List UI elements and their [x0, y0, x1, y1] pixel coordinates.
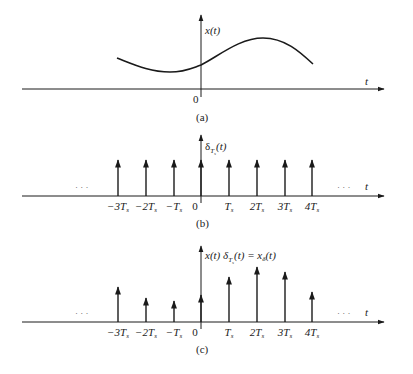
- sampled-impulses: [118, 267, 312, 322]
- panel-b: δTs(t) · · · · · · t −3Ts −2Ts −Ts 0 Ts …: [22, 135, 384, 230]
- y-axis-label: x(t) δTs(t) = xδ(t): [204, 249, 276, 265]
- caption-a: (a): [196, 111, 209, 124]
- tick-label: 4Ts: [305, 200, 320, 214]
- tick-label: 3Ts: [277, 200, 293, 214]
- ellipsis-right: · · ·: [337, 182, 351, 192]
- t-axis-label: t: [365, 180, 369, 192]
- tick-labels: −3Ts −2Ts −Ts 0 Ts 2Ts 3Ts 4Ts: [107, 326, 319, 340]
- signal-curve: [117, 38, 313, 72]
- caption-b: (b): [196, 217, 209, 230]
- tick-label: 4Ts: [305, 326, 320, 340]
- tick-label: −2Ts: [135, 326, 157, 340]
- tick-label: 3Ts: [277, 326, 293, 340]
- y-axis-label: δTs(t): [205, 140, 227, 156]
- panel-c: x(t) δTs(t) = xδ(t) · · · · · · t −3Ts −…: [22, 246, 384, 356]
- tick-label: −3Ts: [107, 326, 129, 340]
- tick-label: Ts: [225, 200, 234, 214]
- tick-label: Ts: [225, 326, 234, 340]
- tick-label: 0: [192, 326, 198, 338]
- t-axis-label: t: [365, 75, 369, 87]
- ellipsis-right: · · ·: [337, 308, 351, 318]
- caption-c: (c): [196, 343, 209, 356]
- sampling-figure: x(t) t 0 (a) δTs(t) · · · · · · t −3Ts −…: [0, 0, 413, 374]
- tick-label: −Ts: [166, 200, 183, 214]
- tick-label: −Ts: [166, 326, 183, 340]
- tick-label: −3Ts: [107, 200, 129, 214]
- tick-labels: −3Ts −2Ts −Ts 0 Ts 2Ts 3Ts 4Ts: [107, 200, 319, 214]
- tick-label: 2Ts: [250, 326, 265, 340]
- tick-label: 2Ts: [250, 200, 265, 214]
- y-axis-label: x(t): [204, 24, 221, 37]
- ellipsis-left: · · ·: [75, 182, 89, 192]
- panel-a: x(t) t 0 (a): [22, 15, 384, 124]
- ellipsis-left: · · ·: [75, 308, 89, 318]
- t-axis-label: t: [365, 306, 369, 318]
- origin-label: 0: [193, 93, 199, 105]
- tick-label: −2Ts: [135, 200, 157, 214]
- impulse-train: [118, 160, 312, 196]
- tick-label: 0: [192, 200, 198, 212]
